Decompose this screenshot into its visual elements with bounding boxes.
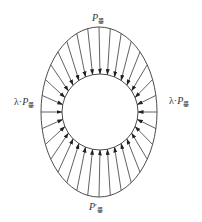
pressure-arrow — [121, 41, 131, 80]
pressure-arrows — [41, 27, 157, 197]
pressure-arrow — [77, 147, 86, 190]
pressure-arrow — [58, 139, 73, 172]
pressure-arrow — [121, 144, 131, 183]
pressure-arrow — [115, 147, 122, 190]
pressure-arrow — [115, 34, 122, 77]
pressure-arrow — [107, 29, 110, 75]
label-top: P垂 — [91, 12, 104, 24]
pressure-arrow — [45, 127, 65, 145]
pressure-arrow — [99, 150, 100, 197]
pressure-arrow — [88, 29, 93, 75]
pressure-arrow — [58, 52, 73, 85]
pressure-arrow — [107, 149, 110, 195]
label-right: λ·P垂 — [169, 95, 189, 107]
label-left: λ·P垂 — [14, 96, 34, 108]
pressure-arrow — [88, 149, 93, 195]
pressure-arrow — [137, 119, 156, 128]
pressure-diagram: P垂 λ·P垂 λ·P垂 P′垂 — [0, 0, 202, 222]
pressure-arrow — [99, 27, 100, 74]
pressure-arrow — [42, 95, 63, 104]
pressure-arrow — [135, 80, 153, 98]
pressure-arrow — [42, 119, 63, 128]
pressure-arrow — [137, 95, 156, 104]
pressure-arrow — [45, 80, 65, 98]
pressure-arrow — [135, 127, 153, 145]
tunnel-circle — [62, 74, 138, 150]
pressure-arrow — [77, 34, 86, 77]
label-bottom: P′垂 — [88, 201, 103, 213]
